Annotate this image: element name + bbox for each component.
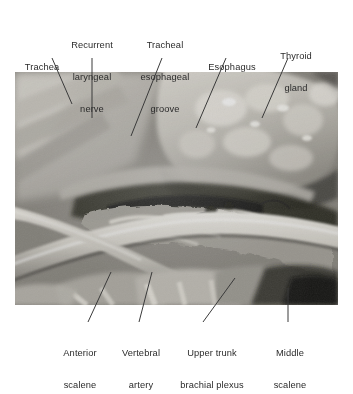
label-anterior-scalene-line-1: Anterior [50,348,110,359]
label-thyroid-gland-line-1: Thyroid [266,51,326,62]
label-tracheal-esophageal-groove-line-2: esophageal [127,72,203,83]
label-thyroid-gland: Thyroid gland [266,30,326,115]
label-upper-trunk-brachial-plexus-line-1: Upper trunk [168,348,256,359]
label-tracheal-esophageal-groove-line-1: Tracheal [127,40,203,51]
label-upper-trunk-brachial-plexus-line-2: brachial plexus [168,380,256,391]
label-recurrent-laryngeal-nerve-line-2: laryngeal [58,72,126,83]
label-vertebral-artery: Vertebral artery [111,327,171,394]
label-recurrent-laryngeal-nerve-line-1: Recurrent [58,40,126,51]
label-tracheal-esophageal-groove: Tracheal esophageal groove [127,19,203,136]
label-upper-trunk-brachial-plexus: Upper trunk brachial plexus [168,327,256,394]
label-recurrent-laryngeal-nerve-line-3: nerve [58,104,126,115]
label-anterior-scalene-line-2: scalene [50,380,110,391]
label-thyroid-gland-line-2: gland [266,83,326,94]
label-middle-scalene-line-1: Middle [262,348,318,359]
label-vertebral-artery-line-1: Vertebral [111,348,171,359]
label-vertebral-artery-line-2: artery [111,380,171,391]
label-middle-scalene: Middle scalene [262,327,318,394]
label-recurrent-laryngeal-nerve: Recurrent laryngeal nerve [58,19,126,136]
label-anterior-scalene: Anterior scalene [50,327,110,394]
label-esophagus: Esophagus [200,41,264,94]
label-tracheal-esophageal-groove-line-3: groove [127,104,203,115]
label-middle-scalene-line-2: scalene [262,380,318,391]
label-esophagus-line-1: Esophagus [200,62,264,73]
